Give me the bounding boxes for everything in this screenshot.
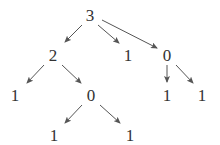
arrow-edge-n0-n1 bbox=[65, 25, 82, 42]
arrow-edge-n3-n7 bbox=[176, 65, 193, 83]
tree-node-n7: 1 bbox=[198, 86, 207, 105]
tree-node-n5: 0 bbox=[87, 86, 96, 105]
tree-node-n3: 0 bbox=[163, 46, 172, 65]
arrow-edge-n0-n2 bbox=[98, 25, 119, 43]
tree-edges bbox=[27, 20, 193, 123]
tree-diagram: 3210101111 bbox=[0, 0, 220, 145]
tree-node-n0: 3 bbox=[86, 6, 95, 25]
tree-node-n1: 2 bbox=[49, 46, 58, 65]
tree-node-n9: 1 bbox=[126, 126, 135, 145]
arrow-edge-n1-n5 bbox=[62, 65, 81, 83]
tree-node-n2: 1 bbox=[124, 46, 133, 65]
arrow-edge-n5-n8 bbox=[65, 105, 82, 123]
tree-node-n6: 1 bbox=[163, 86, 172, 105]
tree-node-n8: 1 bbox=[50, 126, 59, 145]
arrow-edge-n0-n3 bbox=[102, 20, 157, 48]
arrow-edge-n1-n4 bbox=[27, 65, 44, 83]
arrow-edge-n5-n9 bbox=[100, 105, 120, 123]
tree-node-n4: 1 bbox=[11, 86, 20, 105]
tree-nodes: 3210101111 bbox=[11, 6, 207, 145]
